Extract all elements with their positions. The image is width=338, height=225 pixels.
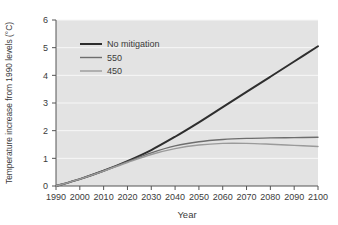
legend-label: No mitigation [107, 39, 160, 49]
x-axis-ticks: 1990200020102020203020402050206020702080… [46, 186, 328, 202]
y-tick-label: 3 [43, 98, 48, 108]
x-tick-label: 2090 [284, 192, 304, 202]
temperature-projection-line-chart: 0123456 19902000201020202030204020502060… [0, 0, 338, 225]
x-tick-label: 2040 [165, 192, 185, 202]
x-tick-label: 1990 [46, 192, 66, 202]
x-tick-label: 2000 [70, 192, 90, 202]
y-tick-label: 2 [43, 126, 48, 136]
x-axis-label: Year [177, 209, 196, 220]
x-tick-label: 2050 [189, 192, 209, 202]
chart-figure: 0123456 19902000201020202030204020502060… [0, 0, 338, 225]
x-tick-label: 2020 [117, 192, 137, 202]
legend-label: 450 [107, 66, 122, 76]
x-tick-label: 2080 [260, 192, 280, 202]
y-tick-label: 1 [43, 154, 48, 164]
y-tick-label: 0 [43, 181, 48, 191]
y-tick-label: 5 [43, 43, 48, 53]
x-tick-label: 2100 [308, 192, 328, 202]
y-axis-label: Temperature increase from 1990 levels (°… [4, 22, 14, 184]
x-tick-label: 2010 [94, 192, 114, 202]
x-tick-label: 2030 [141, 192, 161, 202]
y-axis-ticks: 0123456 [43, 15, 56, 191]
x-tick-label: 2060 [213, 192, 233, 202]
y-tick-label: 6 [43, 15, 48, 25]
y-tick-label: 4 [43, 71, 48, 81]
x-tick-label: 2070 [237, 192, 257, 202]
legend-label: 550 [107, 53, 122, 63]
